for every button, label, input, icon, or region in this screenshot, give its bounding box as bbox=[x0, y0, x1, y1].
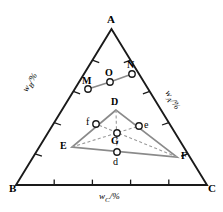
point-label-e: E bbox=[60, 141, 67, 151]
marker-n bbox=[129, 71, 135, 77]
point-label-g: G bbox=[111, 136, 119, 146]
point-label-n: N bbox=[127, 60, 134, 70]
vertex-label-c: C bbox=[208, 183, 216, 194]
marker-f-lower bbox=[93, 121, 99, 127]
point-label-f-lower: f bbox=[86, 117, 89, 127]
vertex-label-a: A bbox=[107, 14, 115, 25]
axis-label-bottom: wC/% bbox=[99, 192, 120, 204]
marker-e-lower bbox=[136, 123, 142, 129]
point-label-d-lower: d bbox=[113, 157, 118, 167]
point-label-f: F bbox=[181, 151, 187, 161]
point-label-e-lower: e bbox=[144, 120, 148, 130]
marker-o bbox=[107, 79, 113, 85]
point-label-m: M bbox=[82, 76, 91, 86]
ternary-diagram-figure: A B C M O N D E F f e d G wB/% wA/% wC/% bbox=[0, 0, 223, 212]
marker-d-lower bbox=[114, 149, 120, 155]
marker-m bbox=[85, 86, 91, 92]
axis-bottom-unit: /% bbox=[110, 191, 120, 201]
point-label-d: D bbox=[111, 97, 118, 107]
vertex-label-b: B bbox=[9, 183, 16, 194]
point-label-o: O bbox=[105, 68, 113, 78]
cevian-e-to-e bbox=[72, 126, 139, 147]
